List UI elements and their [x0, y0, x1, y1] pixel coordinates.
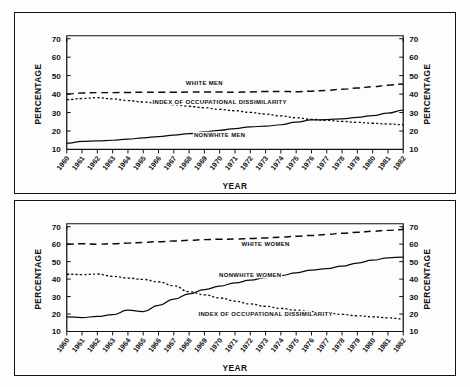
y-tick-label-right: 60 [409, 53, 419, 62]
y-tick-label-right: 40 [409, 275, 419, 284]
x-tick-label: 1971 [223, 155, 239, 172]
x-tick-label: 1976 [300, 337, 316, 354]
x-tick-label: 1967 [162, 337, 178, 354]
x-tick-label: 1963 [101, 337, 117, 354]
y-tick-label-right: 70 [409, 35, 419, 44]
figure-container: 1010202030304040505060607070196019611962… [0, 0, 470, 387]
x-tick-label: 1968 [178, 155, 194, 172]
x-tick-label: 1962 [86, 337, 102, 354]
x-tick-label: 1960 [55, 155, 71, 172]
x-tick-label: 1968 [178, 337, 194, 354]
x-tick-label: 1975 [285, 337, 301, 354]
chart-panel-women: 1010202030304040505060607070196019611962… [14, 200, 456, 376]
y-tick-label-left: 20 [52, 127, 62, 136]
x-tick-label: 1973 [254, 155, 270, 172]
x-tick-label: 1964 [116, 337, 132, 354]
y-tick-label-right: 50 [409, 258, 419, 267]
x-tick-label: 1963 [101, 155, 117, 172]
x-tick-label: 1982 [392, 155, 408, 172]
x-tick-label: 1978 [331, 337, 347, 354]
x-tick-label: 1961 [71, 337, 87, 354]
y-tick-label-left: 40 [52, 275, 62, 284]
x-tick-label: 1967 [162, 155, 178, 172]
x-tick-label: 1965 [132, 337, 148, 354]
x-tick-label: 1972 [239, 337, 255, 354]
y-tick-label-right: 70 [409, 223, 419, 232]
x-tick-label: 1971 [223, 337, 239, 354]
y-tick-label-right: 20 [409, 310, 419, 319]
chart-panel-men: 1010202030304040505060607070196019611962… [14, 12, 456, 194]
y-tick-label-left: 10 [52, 145, 62, 154]
series-line-dashed [67, 230, 403, 245]
y-tick-label-left: 70 [52, 35, 62, 44]
x-axis-title: YEAR [223, 181, 248, 191]
series-line-dashed [67, 84, 403, 94]
x-tick-label: 1981 [376, 337, 392, 354]
series-label: INDEX OF OCCUPATIONAL DISSIMILARITY [153, 99, 287, 105]
y-axis-title-left: PERCENTAGE [33, 64, 43, 125]
x-tick-label: 1972 [239, 155, 255, 172]
y-tick-label-left: 70 [52, 223, 62, 232]
x-tick-label: 1982 [392, 337, 408, 354]
y-tick-label-left: 50 [52, 72, 62, 81]
y-tick-label-left: 30 [52, 293, 62, 302]
x-tick-label: 1974 [269, 155, 285, 172]
x-tick-label: 1978 [331, 155, 347, 172]
x-tick-label: 1964 [116, 155, 132, 172]
chart-svg-women: 1010202030304040505060607070196019611962… [15, 201, 455, 375]
y-tick-label-right: 10 [409, 327, 419, 336]
y-tick-label-right: 30 [409, 109, 419, 118]
y-axis-title-right: PERCENTAGE [422, 249, 432, 310]
x-tick-label: 1970 [208, 155, 224, 172]
plot-top-rule [67, 224, 403, 230]
x-tick-label: 1980 [361, 337, 377, 354]
x-tick-label: 1979 [346, 337, 362, 354]
x-tick-label: 1965 [132, 155, 148, 172]
x-tick-label: 1980 [361, 155, 377, 172]
y-tick-label-right: 50 [409, 72, 419, 81]
y-tick-label-right: 20 [409, 127, 419, 136]
x-tick-label: 1970 [208, 337, 224, 354]
y-axis-title-right: PERCENTAGE [422, 64, 432, 125]
x-tick-label: 1981 [376, 155, 392, 172]
y-tick-label-left: 30 [52, 109, 62, 118]
x-tick-label: 1975 [285, 155, 301, 172]
series-line-solid [67, 257, 403, 317]
series-label: NONWHITE MEN [194, 132, 246, 138]
y-tick-label-right: 40 [409, 90, 419, 99]
x-tick-label: 1977 [315, 155, 331, 172]
y-tick-label-left: 50 [52, 258, 62, 267]
y-tick-label-left: 60 [52, 240, 62, 249]
series-label: WHITE WOMEN [241, 241, 289, 247]
x-tick-label: 1969 [193, 337, 209, 354]
x-tick-label: 1976 [300, 155, 316, 172]
y-tick-label-left: 40 [52, 90, 62, 99]
y-tick-label-right: 30 [409, 293, 419, 302]
chart-svg-men: 1010202030304040505060607070196019611962… [15, 13, 455, 193]
x-tick-label: 1961 [71, 155, 87, 172]
y-tick-label-left: 10 [52, 327, 62, 336]
x-tick-label: 1966 [147, 155, 163, 172]
x-tick-label: 1966 [147, 337, 163, 354]
x-tick-label: 1969 [193, 155, 209, 172]
x-tick-label: 1973 [254, 337, 270, 354]
x-tick-label: 1977 [315, 337, 331, 354]
y-tick-label-right: 60 [409, 240, 419, 249]
y-tick-label-left: 60 [52, 53, 62, 62]
x-tick-label: 1960 [55, 337, 71, 354]
x-tick-label: 1962 [86, 155, 102, 172]
x-tick-label: 1974 [269, 337, 285, 354]
y-axis-title-left: PERCENTAGE [33, 249, 43, 310]
series-label: INDEX OF OCCUPATIONAL DISSIMILARITY [198, 311, 332, 317]
plot-top-rule [67, 36, 403, 42]
y-tick-label-left: 20 [52, 310, 62, 319]
x-tick-label: 1979 [346, 155, 362, 172]
x-axis-title: YEAR [223, 363, 248, 373]
series-label: WHITE MEN [186, 80, 223, 86]
y-tick-label-right: 10 [409, 145, 419, 154]
series-label: NONWHITE WOMEN [219, 272, 281, 278]
